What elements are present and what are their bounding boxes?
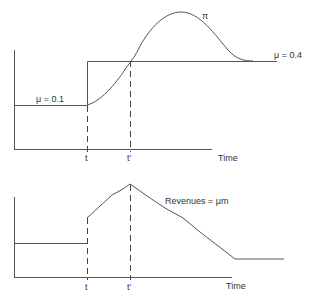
bottom-x-axis-label: Time bbox=[226, 281, 246, 291]
mu-high-label: μ = 0.4 bbox=[274, 50, 302, 60]
mu-low-label: μ = 0.1 bbox=[36, 94, 64, 104]
top-x-axis-label: Time bbox=[218, 153, 238, 163]
top-tick-t: t bbox=[85, 153, 88, 163]
bottom-panel: Revenues = μm t t′ Time bbox=[14, 184, 284, 292]
revenue-label: Revenues = μm bbox=[165, 196, 228, 206]
bottom-tick-t-prime: t′ bbox=[127, 282, 132, 292]
profit-curve bbox=[87, 12, 253, 105]
top-tick-t-prime: t′ bbox=[127, 153, 132, 163]
top-panel: μ = 0.1 μ = 0.4 π t t′ Time bbox=[14, 11, 302, 163]
profit-label: π bbox=[202, 11, 208, 21]
bottom-tick-t: t bbox=[85, 282, 88, 292]
diagram: μ = 0.1 μ = 0.4 π t t′ Time Revenues = μ… bbox=[0, 0, 309, 303]
